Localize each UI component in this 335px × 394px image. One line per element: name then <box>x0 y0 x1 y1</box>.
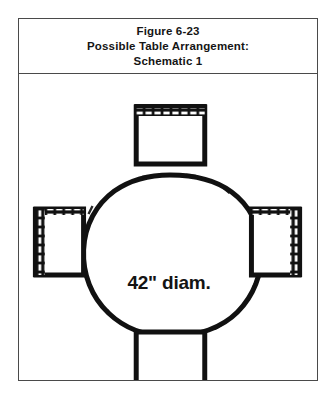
round-table <box>83 175 262 336</box>
schematic-svg <box>19 74 317 380</box>
figure-title-line-1: Figure 6-23 <box>136 24 199 39</box>
figure-title-line-3: Schematic 1 <box>134 54 203 69</box>
chair-bottom-seat <box>136 332 205 380</box>
chair-right <box>251 207 302 277</box>
chair-left-back-rail <box>33 207 37 277</box>
chair-bottom <box>134 332 207 380</box>
chair-top-back-rail <box>134 104 207 108</box>
chair-left <box>33 207 84 277</box>
chair-left-top-trim <box>45 209 84 215</box>
schematic-drawing: 42" diam. <box>19 74 317 380</box>
figure-screenshot: Figure 6-23 Possible Table Arrangement: … <box>0 0 335 394</box>
figure-frame: Figure 6-23 Possible Table Arrangement: … <box>18 18 318 381</box>
chair-right-back-rail <box>298 207 302 277</box>
chair-top-back <box>136 107 205 116</box>
chair-top <box>134 104 207 164</box>
figure-title-block: Figure 6-23 Possible Table Arrangement: … <box>19 19 317 74</box>
figure-title-line-2: Possible Table Arrangement: <box>87 39 249 54</box>
chair-left-back <box>36 209 45 275</box>
chair-right-back <box>290 209 299 275</box>
chair-right-top-trim <box>251 209 290 215</box>
table-circle-texture <box>83 175 261 336</box>
